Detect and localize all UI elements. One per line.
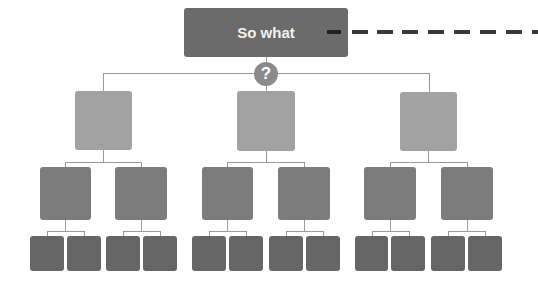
level3-node (106, 236, 140, 271)
connector (227, 162, 304, 163)
level2-node (441, 167, 493, 220)
connector (65, 162, 141, 163)
level3-node (192, 236, 226, 271)
level2-node (364, 167, 416, 220)
level1-node (237, 91, 295, 151)
level2-node (40, 167, 91, 220)
level3-node (306, 236, 340, 271)
connector (266, 151, 267, 162)
root-label: So what (237, 24, 295, 41)
question-icon: ? (254, 62, 278, 86)
root-node: So what (184, 8, 348, 57)
level3-node (67, 236, 101, 271)
level1-node (400, 92, 457, 151)
level3-node (391, 236, 425, 271)
level2-node (202, 167, 253, 220)
level2-node (278, 167, 330, 220)
level3-node (468, 236, 502, 271)
connector (390, 162, 467, 163)
connector (429, 73, 430, 92)
connector (103, 73, 104, 91)
level2-node (115, 167, 167, 220)
level1-node (75, 91, 132, 150)
level3-node (431, 236, 465, 271)
level3-node (269, 236, 303, 271)
level3-node (229, 236, 263, 271)
level3-node (30, 236, 64, 271)
connector (103, 150, 104, 162)
level3-node (143, 236, 177, 271)
connector (428, 151, 429, 162)
level3-node (355, 236, 388, 271)
